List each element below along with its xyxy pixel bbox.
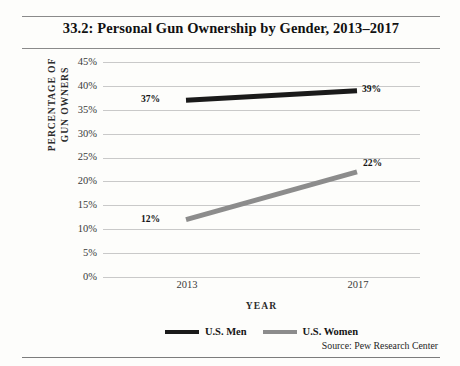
x-tick-label-2013: 2013 [147, 279, 227, 290]
y-tick-label: 25% [53, 151, 97, 162]
y-tick-label: 15% [53, 199, 97, 210]
y-tick-label: 40% [53, 80, 97, 91]
gridline [103, 134, 420, 135]
legend-item-us-men: U.S. Men [165, 326, 247, 337]
gridline [103, 253, 420, 254]
data-label-women-2017: 22% [363, 157, 382, 168]
legend-item-us-women: U.S. Women [263, 326, 359, 337]
y-tick-label: 45% [53, 56, 97, 67]
legend-swatch-icon-us-women [263, 330, 297, 334]
y-tick-label: 30% [53, 128, 97, 139]
gridline [103, 62, 420, 63]
y-tick-label: 0% [53, 271, 97, 282]
gridline [103, 181, 420, 182]
data-label-men-2017: 39% [362, 83, 381, 94]
y-tick-label: 20% [53, 175, 97, 186]
x-axis-title: YEAR [103, 300, 420, 311]
y-tick-label: 5% [53, 247, 97, 258]
source-note: Source: Pew Research Center [322, 340, 438, 351]
data-label-women-2013: 12% [141, 213, 160, 224]
gridline [103, 229, 420, 230]
gridline [103, 205, 420, 206]
gridline [103, 110, 420, 111]
legend-label-us-women: U.S. Women [303, 326, 359, 337]
data-label-men-2013: 37% [141, 93, 160, 104]
gridline [103, 277, 420, 278]
footer-rule [22, 357, 440, 358]
legend-swatch-icon-us-men [165, 330, 199, 334]
y-tick-label: 10% [53, 223, 97, 234]
figure-container: 33.2: Personal Gun Ownership by Gender, … [0, 0, 460, 366]
legend-label-us-men: U.S. Men [205, 326, 247, 337]
y-tick-label: 35% [53, 104, 97, 115]
x-tick-label-2017: 2017 [318, 279, 398, 290]
chart-legend: U.S. Men U.S. Women [103, 326, 420, 337]
